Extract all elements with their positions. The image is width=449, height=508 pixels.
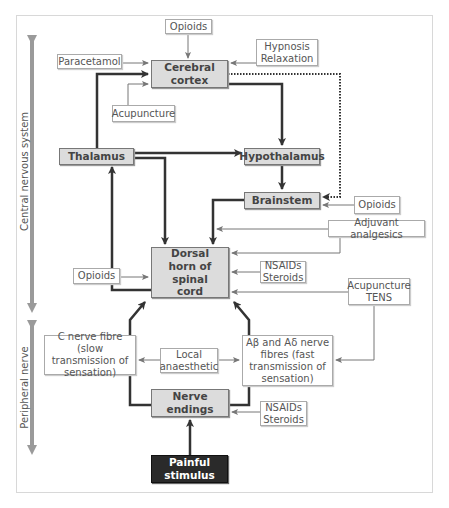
cns-label: Central nervous system bbox=[19, 112, 30, 232]
node-hypothalamus: Hypothalamus bbox=[244, 148, 320, 165]
opioids-cortex: Opioids bbox=[165, 19, 212, 34]
local-anaesthetic: Local anaesthetic bbox=[160, 348, 218, 373]
node-brainstem: Brainstem bbox=[244, 192, 320, 209]
node-cerebral-cortex: Cerebral cortex bbox=[151, 60, 228, 88]
hypnosis-relaxation: Hypnosis Relaxation bbox=[256, 39, 318, 66]
paracetamol: Paracetamol bbox=[57, 54, 122, 69]
node-dorsal-horn: Dorsal horn of spinal cord bbox=[151, 247, 229, 298]
acupuncture-tens: Acupuncture TENS bbox=[348, 278, 410, 305]
opioids-brainstem: Opioids bbox=[354, 196, 400, 214]
node-a-fibres: Aβ and Aδ nerve fibres (fast transmissio… bbox=[242, 335, 333, 386]
adjuvant-analgesics: Adjuvant analgesics bbox=[328, 220, 425, 237]
opioids-dorsal-horn: Opioids bbox=[73, 268, 120, 284]
nsaids-steroids-endings: NSAIDs Steroids bbox=[260, 401, 307, 426]
nsaids-steroids-dorsal: NSAIDs Steroids bbox=[260, 261, 306, 283]
node-nerve-endings: Nerve endings bbox=[151, 389, 229, 417]
node-thalamus: Thalamus bbox=[59, 148, 134, 165]
acupuncture-cortex: Acupuncture bbox=[112, 105, 175, 122]
peripheral-label: Peripheral nerve bbox=[19, 346, 30, 430]
node-painful-stimulus: Painful stimulus bbox=[151, 455, 228, 483]
node-c-fibre: C nerve fibre (slow transmission of sens… bbox=[44, 335, 136, 375]
